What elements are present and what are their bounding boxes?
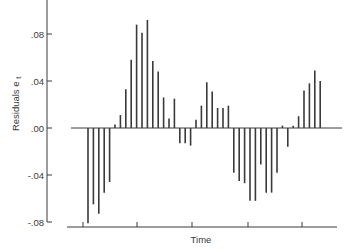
y-axis-label-subscript: t <box>15 77 22 79</box>
y-axis-label-main: Residuals e <box>10 81 21 131</box>
x-axis-label: Time <box>191 234 212 245</box>
y-tick-label: .04 <box>31 76 44 87</box>
residual-stem-chart: .08.04.00-.04-.08 Time Residuals e t <box>0 0 353 251</box>
y-tick-label: -.04 <box>28 170 44 181</box>
y-axis-label: Residuals e t <box>10 77 22 131</box>
y-tick-label: .00 <box>31 123 44 134</box>
y-tick-label: -.08 <box>28 217 44 228</box>
residual-stems <box>88 20 320 223</box>
x-axis <box>67 222 337 227</box>
y-tick-label: .08 <box>31 29 44 40</box>
y-axis: .08.04.00-.04-.08 <box>28 0 52 228</box>
